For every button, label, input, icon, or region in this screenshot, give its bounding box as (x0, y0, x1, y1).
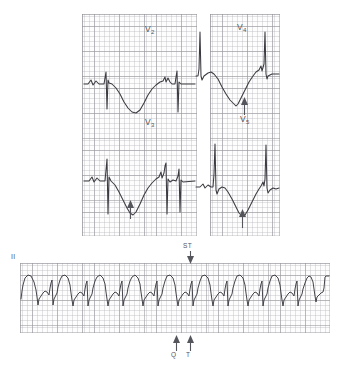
lead-label-v5-sub: 5 (246, 119, 250, 125)
lead-label-v3-text: V (145, 117, 151, 127)
lead-label-v2-text: V (145, 24, 151, 34)
lead-label-v3: V3 (145, 117, 154, 127)
ecg-trace-lead-ii (20, 263, 330, 333)
ecg-panel-rhythm-ii (20, 263, 330, 333)
lead-label-v2-sub: 2 (151, 29, 155, 35)
arrow-down-icon-st (186, 251, 195, 264)
lead-label-v2: V2 (145, 24, 154, 34)
arrow-up-icon-v3 (126, 200, 135, 219)
ecg-trace-v4 (210, 14, 280, 236)
lead-label-v3-sub: 3 (151, 122, 155, 128)
annotation-label-q: Q (171, 351, 176, 358)
ecg-panel-v2-v3 (82, 14, 197, 236)
ecg-trace-v2 (82, 14, 197, 236)
annotation-label-t: T (186, 351, 190, 358)
lead-label-v4-text: V (237, 22, 243, 32)
arrow-up-icon-q (172, 335, 181, 351)
ecg-trace-v3 (82, 14, 197, 236)
ecg-figure: V2 V3 V4 V5 II (0, 0, 340, 369)
arrow-up-icon-t (186, 335, 195, 351)
lead-label-v5-text: V (240, 114, 246, 124)
arrow-up-icon-v5 (238, 209, 247, 228)
lead-label-v4: V4 (237, 22, 246, 32)
lead-label-ii: II (11, 253, 15, 260)
ecg-trace-v5 (210, 14, 280, 236)
lead-label-v5: V5 (240, 114, 249, 124)
arrow-up-icon-v4 (240, 97, 249, 115)
annotation-label-st: ST (183, 242, 192, 249)
ecg-panel-v4-v5 (210, 14, 280, 236)
lead-label-v4-sub: 4 (243, 27, 247, 33)
